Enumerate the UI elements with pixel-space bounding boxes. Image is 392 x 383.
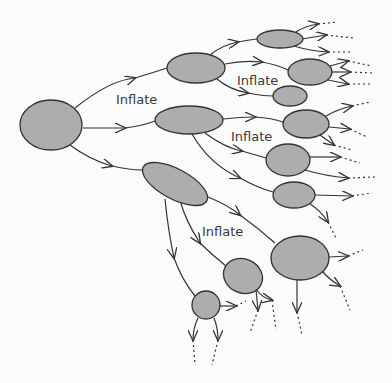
inflate-label: Inflate: [116, 92, 157, 107]
node-b2: [266, 144, 310, 176]
inflate-label: Inflate: [237, 73, 278, 88]
node-c2: [218, 252, 269, 300]
edge-a-a1: [210, 42, 238, 55]
inflate-label: Inflate: [202, 224, 243, 239]
node-b: [155, 106, 223, 134]
node-b1: [283, 110, 329, 138]
edge-c-c3: [165, 199, 174, 258]
node-a: [167, 53, 225, 83]
node-b3: [273, 182, 315, 208]
edge-a-a2: [225, 61, 262, 64]
edge-c-c2: [180, 200, 200, 243]
node-root: [20, 100, 82, 150]
edge-c-c1: [208, 197, 240, 215]
nodes: [20, 30, 332, 319]
node-a3: [273, 86, 307, 106]
edge-b-b1: [223, 117, 255, 119]
node-a2: [288, 59, 332, 85]
inflate-label: Inflate: [231, 129, 272, 144]
node-a1: [257, 30, 303, 48]
node-c: [136, 154, 214, 214]
diagram-svg: InflateInflateInflateInflate: [0, 0, 392, 383]
node-c1: [271, 236, 329, 280]
inflate-tree-diagram: InflateInflateInflateInflate: [0, 0, 392, 383]
labels: InflateInflateInflateInflate: [116, 73, 278, 239]
edge-root-c: [70, 145, 112, 166]
node-c3: [192, 291, 220, 319]
